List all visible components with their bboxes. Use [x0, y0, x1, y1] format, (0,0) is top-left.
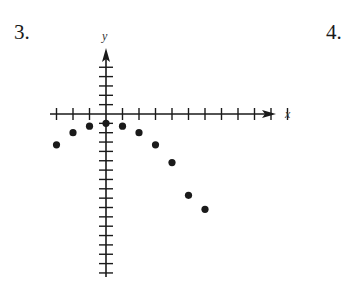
data-point	[185, 192, 192, 199]
scatter-plot: x y	[0, 0, 345, 293]
data-point	[119, 123, 126, 130]
data-point	[168, 159, 175, 166]
data-point	[102, 120, 109, 127]
data-point	[201, 206, 208, 213]
y-axis-label: y	[101, 29, 108, 43]
data-point	[135, 129, 142, 136]
data-points	[53, 120, 209, 213]
data-point	[152, 141, 159, 148]
data-point	[53, 141, 60, 148]
data-point	[69, 129, 76, 136]
data-point	[86, 123, 93, 130]
x-axis-label: x	[284, 107, 291, 121]
